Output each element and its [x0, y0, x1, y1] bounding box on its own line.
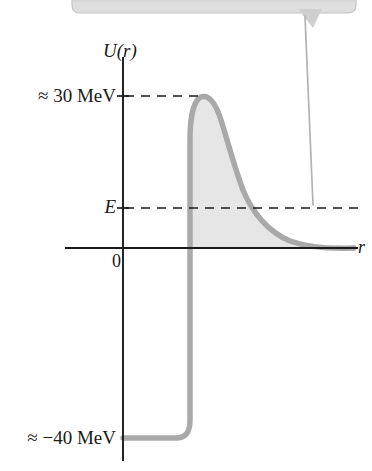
barrier-shaded-region [190, 96, 352, 248]
potential-energy-curve [123, 96, 354, 438]
callout-pointer-icon [298, 9, 322, 28]
leader-line [305, 16, 313, 205]
origin-label: 0 [112, 252, 121, 270]
well-depth-label: ≈ −40 MeV [4, 428, 116, 447]
energy-level-label: E [96, 197, 116, 216]
barrier-height-label: ≈ 30 MeV [8, 86, 116, 105]
callout-box-shade [72, 0, 356, 2]
figure-canvas [0, 0, 372, 471]
y-axis-label: U(r) [103, 41, 137, 60]
potential-energy-figure: U(r) ≈ 30 MeV E 0 r ≈ −40 MeV [0, 0, 372, 471]
x-axis-label: r [358, 238, 365, 256]
